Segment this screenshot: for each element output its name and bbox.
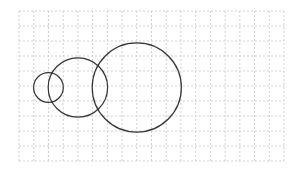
diagram-canvas	[0, 0, 296, 176]
grid	[19, 11, 284, 161]
